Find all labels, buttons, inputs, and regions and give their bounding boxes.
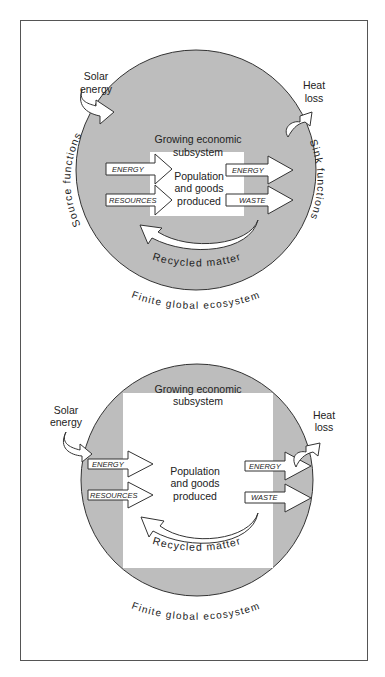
center-line3: produced [177,195,221,207]
input-energy-label: ENERGY [92,460,125,469]
output-energy-label: ENERGY [232,166,265,175]
center-line1: Population [174,170,224,182]
output-waste-label: WASTE [239,196,267,205]
input-resources-label: RESOURCES [109,196,157,205]
center-line1: Population [170,465,220,477]
heat-loss-line1: Heat [313,409,335,421]
economy-title-line1: Growing economic [155,133,242,145]
ecosystem-diagram: Growing economic subsystem Population an… [0,0,385,677]
input-energy-label: ENERGY [112,165,145,174]
heat-loss-line1: Heat [303,79,325,91]
finite-ecosystem-label: Finite global ecosystem [130,289,261,311]
output-waste-label: WASTE [251,493,279,502]
solar-energy-line1: Solar [84,70,109,82]
finite-ecosystem-label: Finite global ecosystem [130,600,261,622]
economy-title-line2: subsystem [173,146,223,158]
heat-loss-line2: loss [305,92,324,104]
solar-energy-line2: energy [80,83,113,95]
economy-title-line1: Growing economic [155,383,242,395]
economy-title-line2: subsystem [173,395,223,407]
bottom-panel: Growing economic subsystem Population an… [50,364,335,622]
center-line2: and goods [174,182,223,194]
center-line2: and goods [170,477,219,489]
solar-energy-line2: energy [50,416,83,428]
top-panel: Growing economic subsystem Population an… [60,50,327,311]
solar-energy-line1: Solar [54,404,79,416]
center-line3: produced [173,490,217,502]
heat-loss-line2: loss [315,421,334,433]
output-energy-label: ENERGY [249,462,282,471]
input-resources-label: RESOURCES [90,491,138,500]
